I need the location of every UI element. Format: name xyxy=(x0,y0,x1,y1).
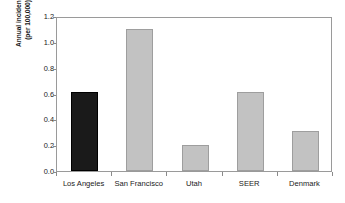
bar-seer xyxy=(237,92,264,171)
plot-area xyxy=(57,18,331,171)
bar-los-angeles xyxy=(71,92,98,171)
x-axis-label-utah: Utah xyxy=(166,179,221,189)
y-axis-tick-label: 0.4 xyxy=(30,116,54,124)
x-axis-tick-mark xyxy=(277,172,278,176)
x-axis-label-seer: SEER xyxy=(222,179,277,189)
x-axis-tick-mark xyxy=(111,172,112,176)
x-axis-tick-mark xyxy=(332,172,333,176)
y-axis-tick-label: 0.6 xyxy=(30,91,54,99)
x-axis-category-labels: Los AngelesSan FranciscoUtahSEERDenmark xyxy=(56,179,332,193)
y-axis-tick-label: 0.0 xyxy=(30,168,54,176)
x-axis-label-los-angeles: Los Angeles xyxy=(56,179,111,189)
x-axis-tick-mark xyxy=(56,172,57,176)
x-axis-label-denmark: Denmark xyxy=(277,179,332,189)
y-axis-tick-label: 1.2 xyxy=(30,13,54,21)
x-axis-tick-mark xyxy=(166,172,167,176)
x-axis-label-san-francisco: San Francisco xyxy=(111,179,166,189)
bar-denmark xyxy=(292,131,319,171)
y-axis-tick-labels: 0.00.20.40.60.81.01.2 xyxy=(30,12,54,177)
bar-san-francisco xyxy=(126,29,153,171)
x-axis-tick-mark xyxy=(222,172,223,176)
bar-chart: Annual incidence (per 100,000) 0.00.20.4… xyxy=(0,0,345,203)
bar-utah xyxy=(182,145,209,171)
y-axis-tick-label: 0.8 xyxy=(30,65,54,73)
y-axis-tick-label: 1.0 xyxy=(30,39,54,47)
y-axis-tick-label: 0.2 xyxy=(30,142,54,150)
y-axis-title-line-1: Annual incidence xyxy=(15,0,24,47)
plot-frame xyxy=(56,17,332,172)
